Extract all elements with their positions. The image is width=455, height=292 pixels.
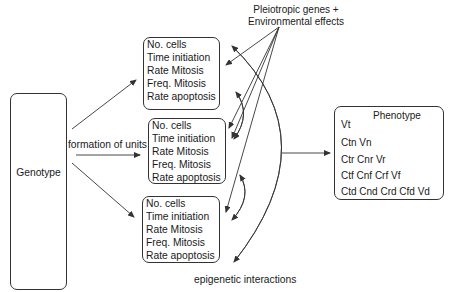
- unit3-time-initiation: Time initiation: [146, 211, 216, 224]
- unit2-freq-mitosis: Freq. Mitosis: [152, 159, 222, 172]
- phenotype-row-vt: Vt: [341, 119, 350, 130]
- unit1-rate-mitosis: Rate Mitosis: [147, 65, 216, 78]
- unit1-no-cells: No. cells: [147, 39, 216, 52]
- unit3-rate-mitosis: Rate Mitosis: [146, 224, 216, 237]
- pleiotropic-label: Pleiotropic genes + Environmental effect…: [248, 4, 344, 28]
- formation-of-units-label: formation of units: [68, 139, 147, 151]
- unit2-time-initiation: Time initiation: [152, 133, 222, 146]
- unit2-no-cells: No. cells: [152, 120, 222, 133]
- arrow-pleio-unit3: [226, 27, 279, 212]
- phenotype-row-f: Ctf Cnf Crf Vf: [341, 170, 400, 181]
- unit1-rate-apoptosis: Rate apoptosis: [147, 91, 216, 104]
- unit-box-1: No. cells Time initiation Rate Mitosis F…: [143, 37, 220, 110]
- phenotype-row-r: Ctr Cnr Vr: [341, 154, 386, 165]
- genotype-label: Genotype: [11, 167, 66, 178]
- unit-box-2: No. cells Time initiation Rate Mitosis F…: [148, 118, 226, 184]
- unit1-freq-mitosis: Freq. Mitosis: [147, 78, 216, 91]
- arrow-genotype-unit3: [72, 163, 134, 217]
- unit2-rate-mitosis: Rate Mitosis: [152, 146, 222, 159]
- phenotype-box: Phenotype Vt Ctn Vn Ctr Cnr Vr Ctf Cnf C…: [334, 106, 444, 200]
- genotype-box: Genotype: [10, 93, 67, 290]
- phenotype-row-n: Ctn Vn: [341, 137, 372, 148]
- arrow-genotype-unit1: [72, 80, 136, 129]
- unit3-no-cells: No. cells: [146, 198, 216, 211]
- unit2-rate-apoptosis: Rate apoptosis: [152, 172, 222, 185]
- phenotype-row-d: Ctd Cnd Crd Cfd Vd: [341, 186, 430, 197]
- pleiotropic-line1: Pleiotropic genes +: [248, 4, 344, 16]
- unit3-freq-mitosis: Freq. Mitosis: [146, 237, 216, 250]
- unit-box-3: No. cells Time initiation Rate Mitosis F…: [142, 196, 220, 263]
- phenotype-title: Phenotype: [373, 110, 421, 121]
- pleiotropic-line2: Environmental effects: [248, 16, 344, 28]
- arrow-epi-2-3-start: [232, 175, 245, 220]
- unit3-rate-apoptosis: Rate apoptosis: [146, 250, 216, 263]
- unit1-time-initiation: Time initiation: [147, 52, 216, 65]
- epigenetic-label: epigenetic interactions: [194, 274, 296, 286]
